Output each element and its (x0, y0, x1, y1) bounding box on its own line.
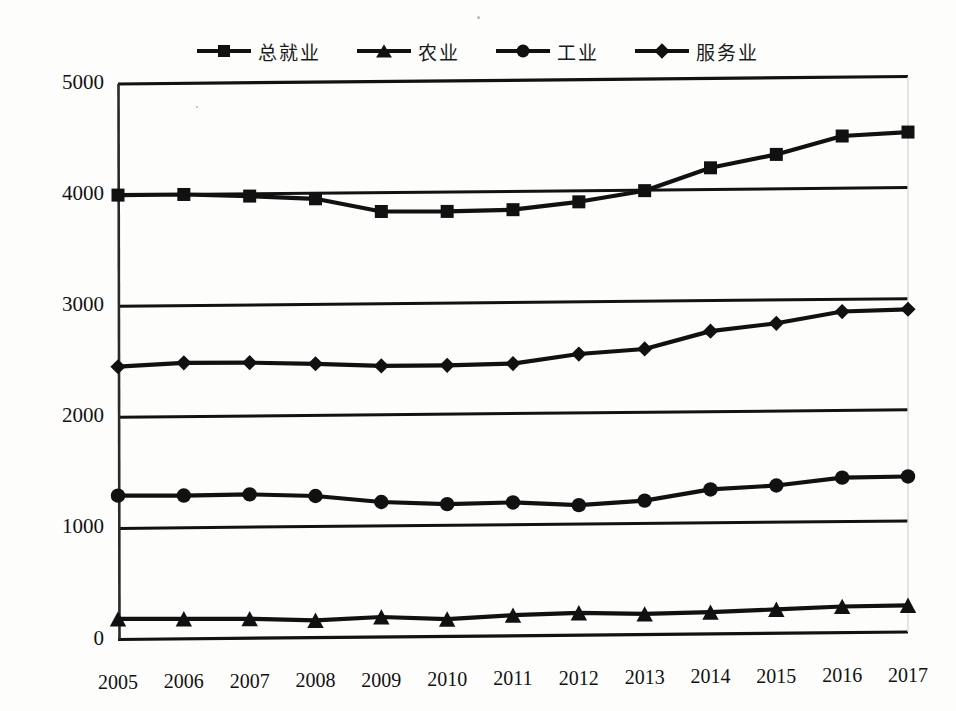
data-marker-square (836, 130, 849, 143)
x-axis-tick-label: 2007 (215, 670, 285, 693)
x-axis-tick-label: 2013 (610, 666, 680, 689)
gridline-5000 (118, 77, 908, 85)
x-axis-tick-label: 2011 (478, 667, 548, 690)
gridline-0 (118, 632, 908, 640)
data-marker-square (441, 205, 454, 218)
x-axis-tick-label: 2014 (676, 665, 746, 688)
x-axis-tick-label: 2012 (544, 667, 614, 690)
x-axis-tick-label: 2005 (83, 671, 153, 694)
data-marker-circle (374, 495, 388, 509)
y-axis-tick-label: 3000 (4, 292, 104, 317)
data-marker-diamond (835, 304, 850, 319)
scan-speck (477, 16, 480, 19)
data-marker-diamond (571, 346, 586, 361)
data-marker-diamond (176, 355, 191, 370)
data-marker-circle (901, 469, 915, 483)
data-marker-square (572, 195, 585, 208)
y-axis-tick-label: 2000 (4, 403, 104, 428)
plot-svg (0, 0, 956, 711)
data-marker-square (902, 126, 915, 139)
data-marker-diamond (110, 359, 125, 374)
chart-page: 总就业农业工业服务业 500040003000200010000 2005200… (0, 0, 956, 711)
data-marker-diamond (900, 302, 915, 317)
data-marker-circle (637, 493, 651, 507)
data-marker-circle (242, 487, 256, 501)
scan-speck (196, 106, 198, 108)
y-axis-tick-label: 0 (4, 626, 104, 651)
gridline-2000 (118, 410, 908, 418)
gridline-1000 (118, 521, 908, 529)
y-axis-tick-label: 5000 (4, 70, 104, 95)
series-line (118, 132, 908, 211)
data-marker-square (112, 189, 125, 202)
series-农业 (110, 598, 916, 628)
data-marker-diamond (440, 358, 455, 373)
data-marker-square (507, 203, 520, 216)
data-marker-circle (769, 478, 783, 492)
x-axis-tick-label: 2008 (281, 669, 351, 692)
data-marker-circle (440, 497, 454, 511)
series-工业 (111, 469, 915, 512)
data-marker-circle (177, 488, 191, 502)
y-axis: 500040003000200010000 (0, 0, 104, 711)
data-marker-square (375, 205, 388, 218)
data-marker-diamond (703, 324, 718, 339)
data-marker-circle (572, 498, 586, 512)
data-marker-diamond (242, 355, 257, 370)
data-marker-diamond (308, 356, 323, 371)
data-marker-circle (506, 495, 520, 509)
data-marker-circle (111, 488, 125, 502)
x-axis-tick-label: 2009 (346, 669, 416, 692)
data-marker-square (638, 184, 651, 197)
gridline-3000 (118, 299, 908, 307)
data-marker-circle (308, 489, 322, 503)
data-marker-square (770, 148, 783, 161)
data-marker-diamond (769, 316, 784, 331)
series-服务业 (110, 302, 915, 375)
x-axis-tick-label: 2016 (807, 664, 877, 687)
x-axis-tick-label: 2010 (412, 668, 482, 691)
x-axis-tick-label: 2006 (149, 670, 219, 693)
data-marker-square (704, 161, 717, 174)
data-marker-square (243, 190, 256, 203)
x-axis-tick-label: 2015 (741, 665, 811, 688)
series-总就业 (112, 126, 915, 218)
data-marker-diamond (637, 341, 652, 356)
data-marker-diamond (374, 358, 389, 373)
x-axis: 2005200620072008200920102011201220132014… (0, 663, 956, 697)
data-marker-diamond (505, 356, 520, 371)
data-marker-square (309, 192, 322, 205)
data-marker-square (177, 188, 190, 201)
data-marker-circle (703, 482, 717, 496)
plot-area (0, 0, 956, 711)
data-marker-circle (835, 470, 849, 484)
x-axis-tick-label: 2017 (873, 664, 943, 687)
y-axis-tick-label: 4000 (4, 181, 104, 206)
y-axis-tick-label: 1000 (4, 514, 104, 539)
